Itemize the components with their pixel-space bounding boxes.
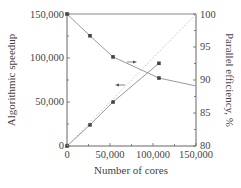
y-tick-2: 100,000 [30,52,64,63]
y-tick-0: 0 [59,140,64,151]
data-point-marker [88,123,92,127]
x-tick-1: 50,000 [96,149,125,160]
data-point-marker [111,55,115,59]
x-axis-label: Number of cores [94,164,168,176]
arrow-left-icon [115,84,125,87]
x-tick-labels: 0 50,000 100,000 150,000 [64,149,213,160]
chart: 0 50,000 100,000 150,000 0 50,000 100,00… [0,0,241,188]
data-point-marker [157,76,161,80]
series-ideal-speedup [67,14,196,146]
y2-tick-0: 80 [200,140,211,151]
x-tick-2: 100,000 [136,149,170,160]
y2-tick-4: 100 [200,9,216,20]
y-tick-1: 50,000 [35,96,64,107]
y-tick-3: 150,000 [30,9,64,20]
data-point-marker [157,61,161,65]
series-algorithmic-speedup [65,61,161,147]
y-axis-label: Algorithmic speedup [5,33,17,126]
arrow-right-icon [127,61,137,64]
axis-arrows [115,61,137,87]
y-tick-labels: 0 50,000 100,000 150,000 [30,9,64,151]
x-tick-0: 0 [64,149,69,160]
series-layer [65,12,196,148]
y2-tick-3: 95 [200,41,211,52]
series-parallel-efficiency [65,12,196,86]
data-point-marker [88,34,92,38]
data-point-marker [65,12,69,16]
y2-tick-1: 85 [200,107,211,118]
y2-tick-2: 90 [200,74,211,85]
y2-tick-labels: 80 85 90 95 100 [200,9,216,151]
y2-axis-label: Parallel efficiency, % [224,33,236,127]
